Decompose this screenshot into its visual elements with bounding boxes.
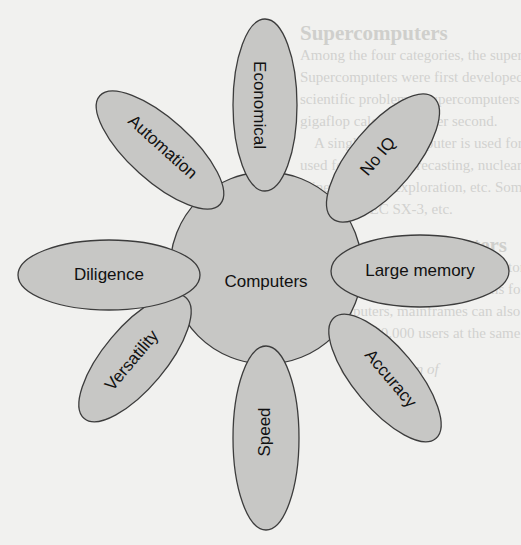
petal-label: Speed <box>255 407 274 456</box>
computer-characteristics-diagram: Economical No IQ Large memory Accuracy S… <box>0 0 521 545</box>
petal-diligence: Diligence <box>18 240 200 310</box>
petal-label: Diligence <box>74 265 144 284</box>
petal-label: Large memory <box>365 261 475 280</box>
petal-large-memory: Large memory <box>331 235 509 307</box>
center-label: Computers <box>224 272 307 291</box>
petal-accuracy: Accuracy <box>310 298 459 459</box>
petal-economical: Economical <box>233 19 297 191</box>
petal-no-iq: No IQ <box>308 77 459 239</box>
petal-label: Economical <box>250 61 269 149</box>
petal-speed: Speed <box>233 346 299 530</box>
petal-automation: Automation <box>79 73 241 227</box>
